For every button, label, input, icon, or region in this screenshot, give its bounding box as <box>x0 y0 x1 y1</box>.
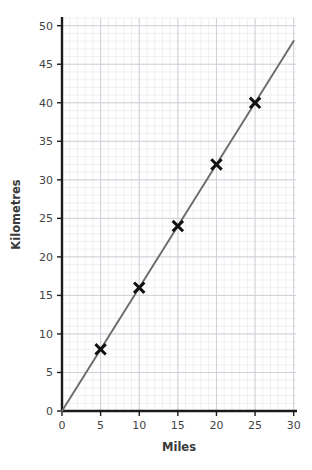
x-axis-tick-label: 30 <box>287 419 301 432</box>
x-axis-tick-label: 5 <box>97 419 104 432</box>
y-axis-tick-label: 15 <box>39 289 53 302</box>
chart-canvas: 051015202530 05101520253035404550 Miles … <box>0 0 312 470</box>
conversion-graph-figure: 051015202530 05101520253035404550 Miles … <box>0 0 312 470</box>
y-axis-tick-label: 25 <box>39 212 53 225</box>
x-axis-tick-label: 20 <box>209 419 223 432</box>
x-axis-tick-label: 10 <box>132 419 146 432</box>
y-axis-tick-label: 50 <box>39 20 53 33</box>
x-axis-tick-label: 0 <box>59 419 66 432</box>
y-axis-tick-label: 40 <box>39 97 53 110</box>
y-axis-tick-label: 35 <box>39 135 53 148</box>
y-axis-tick-label: 30 <box>39 174 53 187</box>
y-axis-tick-label: 45 <box>39 58 53 71</box>
x-axis-tick-label: 25 <box>248 419 262 432</box>
x-axis-title: Miles <box>162 440 196 454</box>
y-axis-title: Kilometres <box>9 179 23 249</box>
y-axis-tick-label: 10 <box>39 328 53 341</box>
y-axis-tick-label: 20 <box>39 251 53 264</box>
y-axis-tick-label: 0 <box>46 405 53 418</box>
y-axis-tick-label: 5 <box>46 366 53 379</box>
x-axis-tick-label: 15 <box>171 419 185 432</box>
